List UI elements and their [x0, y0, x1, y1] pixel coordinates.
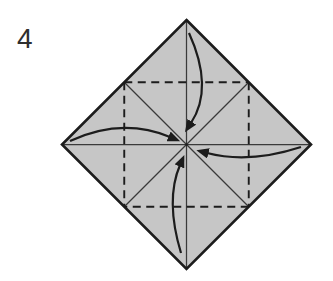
origami-diagram [0, 0, 333, 281]
origami-instruction-step: 4 [0, 0, 333, 281]
